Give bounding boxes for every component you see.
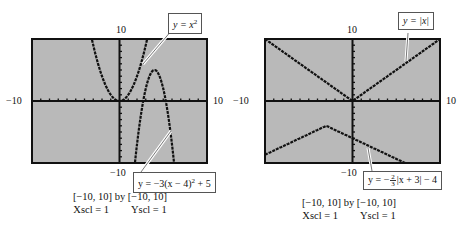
yscl: Yscl = 1	[131, 204, 167, 215]
equation-text: y = |x|	[403, 15, 429, 26]
x-min-label: −10	[6, 96, 22, 106]
callout-abs-x: y = |x|	[398, 12, 434, 30]
equation-text-tail: |x + 3| − 4	[397, 174, 437, 185]
equation-text-tail: + 5	[195, 178, 211, 189]
callout-y-x-squared: y = x2	[168, 13, 202, 34]
window-caption-left: [−10, 10] by [−10, 10] Xscl = 1Yscl = 1	[60, 190, 180, 216]
denominator: 3	[390, 181, 396, 187]
callout-transformed-abs: y = −23|x + 3| − 4	[363, 171, 442, 190]
xscl: Xscl = 1	[302, 210, 338, 221]
equation-text: y = x	[173, 19, 194, 30]
yscl: Yscl = 1	[360, 210, 396, 221]
x-min-label: −10	[233, 96, 249, 106]
equation-text: y = −3(x − 4)	[138, 178, 192, 189]
x-max-label: 10	[213, 96, 223, 106]
y-min-label: −10	[341, 168, 357, 178]
window-range: [−10, 10] by [−10, 10]	[289, 196, 409, 209]
graph-panel-left: 10 −10 10 −10 y = x2 y = −3(x − 4)2 + 5 …	[0, 0, 231, 235]
graph-panel-right: 10 −10 10 −10 y = |x| y = −23|x + 3| − 4…	[231, 0, 462, 235]
y-min-label: −10	[110, 168, 126, 178]
exponent: 2	[194, 18, 198, 26]
scale-line: Xscl = 1Yscl = 1	[289, 209, 409, 222]
y-max-label: 10	[347, 25, 357, 35]
window-range: [−10, 10] by [−10, 10]	[60, 190, 180, 203]
fraction: 23	[390, 174, 396, 187]
x-max-label: 10	[446, 96, 456, 106]
equation-text: y = −	[368, 174, 389, 185]
window-caption-right: [−10, 10] by [−10, 10] Xscl = 1Yscl = 1	[289, 196, 409, 222]
xscl: Xscl = 1	[73, 204, 109, 215]
y-max-label: 10	[116, 25, 126, 35]
scale-line: Xscl = 1Yscl = 1	[60, 203, 180, 216]
